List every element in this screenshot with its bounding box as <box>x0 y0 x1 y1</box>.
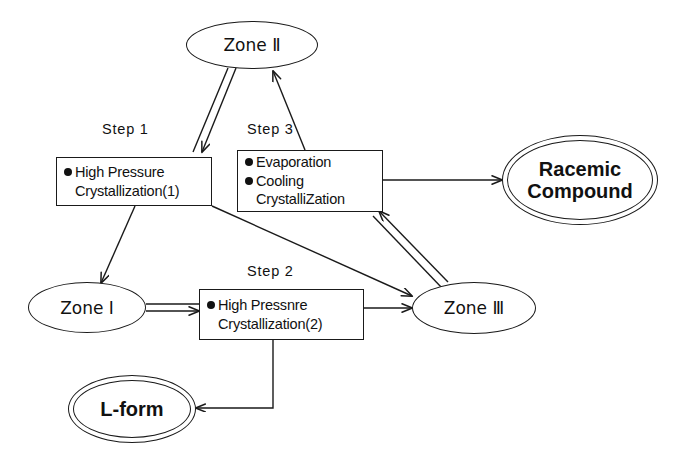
node-step-1[interactable]: High Pressure Crystallization(1) <box>56 157 212 206</box>
edge-step3-to-zone2 <box>273 71 305 150</box>
racemic-compound-line-1: Racemic <box>539 158 621 180</box>
edge-step1-to-zone1 <box>101 206 135 283</box>
step-1-line-2: Crystallization(1) <box>64 182 205 201</box>
node-zone-3-label: Zone Ⅲ <box>444 298 504 318</box>
node-step-3[interactable]: Evaporation Cooling CrystalliZation <box>237 150 383 212</box>
node-racemic-compound[interactable]: Racemic Compound <box>502 135 658 225</box>
step-2-line-1: High Pressnre <box>207 296 357 315</box>
edge-step1-to-zone3 <box>212 206 412 296</box>
step-3-line-2: Cooling <box>245 172 376 191</box>
node-step-2[interactable]: High Pressnre Crystallization(2) <box>199 289 364 340</box>
racemic-compound-label: Racemic Compound <box>527 158 633 203</box>
step-3-caption: Step 3 <box>247 121 294 137</box>
node-zone-3[interactable]: Zone Ⅲ <box>412 282 536 334</box>
edge-step2-to-lform <box>196 340 273 408</box>
edge-zone1-to-step2 <box>146 304 199 311</box>
diagram-canvas: Zone II (single line) --> Zone I (single… <box>0 0 673 475</box>
edge-zone2-to-step1 <box>193 68 236 152</box>
step-1-caption: Step 1 <box>102 121 149 137</box>
bullet-icon <box>245 158 253 166</box>
l-form-label: L-form <box>100 398 163 420</box>
racemic-compound-line-2: Compound <box>527 180 633 202</box>
bullet-icon <box>245 177 253 185</box>
node-zone-1[interactable]: Zone Ⅰ <box>28 282 146 333</box>
step-2-line-2: Crystallization(2) <box>207 315 357 334</box>
step-3-line-1: Evaporation <box>245 153 376 172</box>
step-1-line-1: High Pressure <box>64 163 205 182</box>
bullet-icon <box>64 168 72 176</box>
node-zone-1-label: Zone Ⅰ <box>60 298 114 318</box>
edge-zone3-to-step3 <box>373 211 448 288</box>
bullet-icon <box>207 301 215 309</box>
node-zone-2[interactable]: Zone Ⅱ <box>186 21 318 69</box>
step-2-caption: Step 2 <box>247 263 294 279</box>
node-zone-2-label: Zone Ⅱ <box>223 35 280 55</box>
step-3-line-3: CrystalliZation <box>245 190 376 209</box>
node-l-form[interactable]: L-form <box>68 375 196 443</box>
